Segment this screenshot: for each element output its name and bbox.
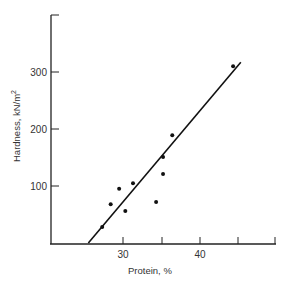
data-point (117, 187, 121, 191)
y-tick-label-100: 100 (30, 181, 47, 192)
x-tick-label-30: 30 (117, 249, 129, 260)
y-tick-label-200: 200 (30, 124, 47, 135)
data-point (231, 64, 235, 68)
data-point (161, 172, 165, 176)
data-point (170, 133, 174, 137)
data-point (109, 202, 113, 206)
data-point (161, 155, 165, 159)
y-tick-label-300: 300 (30, 67, 47, 78)
x-axis-label: Protein, % (128, 265, 172, 276)
data-point (154, 200, 158, 204)
regression-line (88, 62, 240, 243)
x-tick-label-40: 40 (194, 249, 206, 260)
data-point (123, 209, 127, 213)
axes (50, 15, 276, 244)
fit-line (88, 62, 240, 243)
scatter-chart: 300 200 100 30 40 Protein, % Hardness, k… (0, 0, 294, 284)
data-point (131, 181, 135, 185)
y-axis-label: Hardness, kN/m2 (10, 90, 22, 162)
data-point (100, 225, 104, 229)
